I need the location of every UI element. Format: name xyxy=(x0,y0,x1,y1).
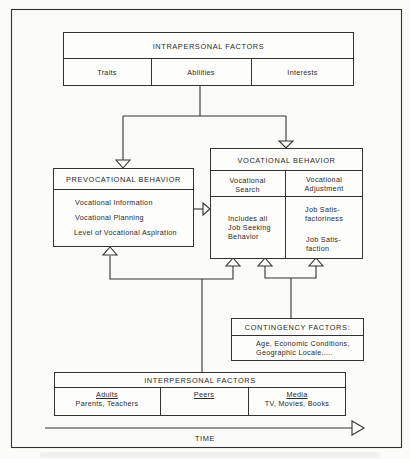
time-arrow-icon xyxy=(352,421,364,435)
header-line: Search xyxy=(210,185,285,194)
body-line: factoriness xyxy=(305,214,361,223)
header-line: Vocational xyxy=(210,176,285,185)
vocational-adjustment-header: Vocational Adjustment xyxy=(285,175,363,193)
header-line: Adjustment xyxy=(285,184,363,193)
prevocational-item: Level of Vocational Aspiration xyxy=(74,228,192,237)
body-line: Age, Economic Conditions, xyxy=(256,339,364,348)
divider xyxy=(53,189,194,190)
intrapersonal-title: INTRAPERSONAL FACTORS xyxy=(63,42,354,51)
vocational-title: VOCATIONAL BEHAVIOR xyxy=(210,156,363,165)
body-line: Job Satis- xyxy=(306,235,362,244)
header-line: Vocational xyxy=(285,175,363,184)
intrapersonal-traits: Traits xyxy=(63,68,151,77)
page-bleed-through xyxy=(40,452,380,458)
interpersonal-title: INTERPERSONAL FACTORS xyxy=(54,376,346,385)
column-label: Peers xyxy=(160,390,248,399)
arrow-up-icon xyxy=(309,258,323,266)
arrow-right-icon xyxy=(203,203,210,215)
divider xyxy=(210,196,363,197)
column-label: Adults xyxy=(54,390,160,399)
body-line: faction xyxy=(306,244,362,253)
intrapersonal-interests: Interests xyxy=(251,68,354,77)
body-line: Job Seeking xyxy=(228,223,284,232)
contingency-title: CONTINGENCY FACTORS: xyxy=(231,323,364,332)
arrow-down-icon xyxy=(116,160,130,168)
body-line: Includes all xyxy=(228,214,284,223)
arrow-down-icon xyxy=(279,141,293,148)
column-label: Media xyxy=(248,390,346,399)
contingency-body: Age, Economic Conditions, Geographic Loc… xyxy=(256,339,364,357)
column-detail: TV, Movies, Books xyxy=(248,399,346,408)
divider xyxy=(63,58,354,59)
interpersonal-media: Media TV, Movies, Books xyxy=(248,390,346,408)
prevocational-item: Vocational Information xyxy=(75,198,190,207)
interpersonal-adults: Adults Parents, Teachers xyxy=(54,390,160,408)
divider xyxy=(231,335,364,336)
divider xyxy=(54,387,346,388)
vocational-search-header: Vocational Search xyxy=(210,176,285,194)
column-detail: Parents, Teachers xyxy=(54,399,160,408)
intrapersonal-abilities: Abilities xyxy=(151,68,251,77)
arrow-up-icon xyxy=(258,258,272,266)
vocational-adjustment-body-2: Job Satis- faction xyxy=(306,235,362,253)
vocational-adjustment-body-1: Job Satis- factoriness xyxy=(305,205,361,223)
interpersonal-peers: Peers xyxy=(160,390,248,399)
body-line: Behavior xyxy=(228,232,284,241)
arrow-up-icon xyxy=(226,258,240,266)
prevocational-item: Vocational Planning xyxy=(75,213,190,222)
intrapersonal-factors-box xyxy=(63,32,354,86)
body-line: Job Satis- xyxy=(305,205,361,214)
vocational-search-body: Includes all Job Seeking Behavior xyxy=(228,214,284,241)
time-label: TIME xyxy=(180,434,230,443)
body-line: Geographic Locale..... xyxy=(256,348,364,357)
divider xyxy=(210,170,363,171)
prevocational-title: PREVOCATIONAL BEHAVIOR xyxy=(53,175,194,184)
arrow-up-icon xyxy=(103,247,117,255)
